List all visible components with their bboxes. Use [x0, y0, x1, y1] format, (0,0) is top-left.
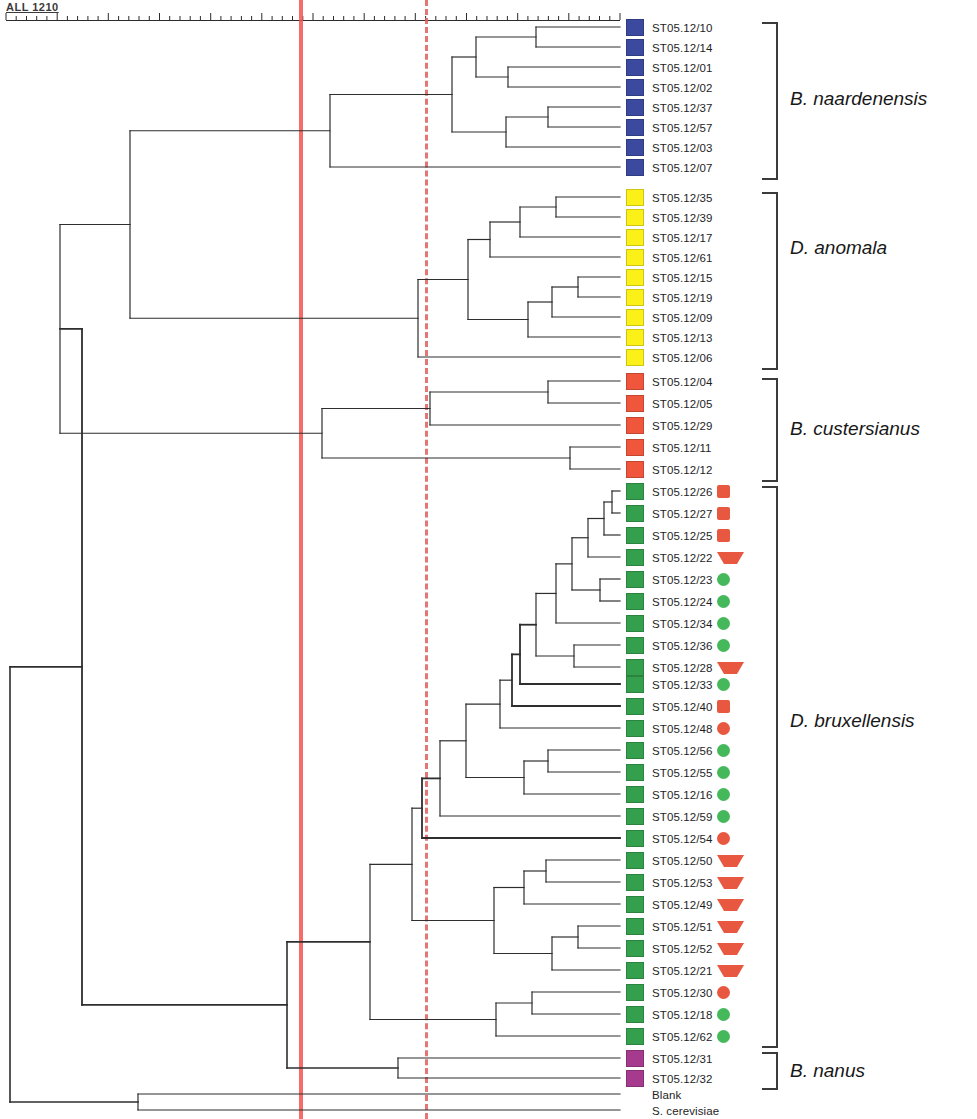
- species-color-swatch: [626, 39, 644, 56]
- species-color-swatch: [626, 1006, 644, 1023]
- red-triangle-marker: [717, 965, 744, 977]
- leaf-row[interactable]: ST05.12/49: [626, 895, 744, 914]
- leaf-row[interactable]: ST05.12/61: [626, 248, 712, 267]
- leaf-label: ST05.12/21: [652, 965, 712, 977]
- leaf-label: ST05.12/55: [652, 767, 712, 779]
- species-color-swatch: [626, 764, 644, 781]
- red-triangle-marker: [717, 921, 744, 933]
- leaf-row[interactable]: ST05.12/57: [626, 118, 712, 137]
- leaf-label: ST05.12/06: [652, 352, 712, 364]
- green-circle-marker: [717, 595, 730, 608]
- species-color-swatch: [626, 637, 644, 654]
- leaf-row[interactable]: ST05.12/26: [626, 482, 730, 501]
- leaf-row[interactable]: ST05.12/55: [626, 763, 730, 782]
- leaf-label: ST05.12/62: [652, 1031, 712, 1043]
- leaf-row[interactable]: ST05.12/10: [626, 18, 712, 37]
- leaf-row[interactable]: ST05.12/06: [626, 348, 712, 367]
- leaf-row[interactable]: ST05.12/24: [626, 592, 730, 611]
- dendrogram-branches: [0, 0, 660, 1119]
- leaf-row[interactable]: ST05.12/62: [626, 1027, 730, 1046]
- leaf-label: ST05.12/17: [652, 232, 712, 244]
- leaf-row[interactable]: ST05.12/09: [626, 308, 712, 327]
- leaf-row[interactable]: ST05.12/11: [626, 438, 712, 457]
- leaf-row[interactable]: ST05.12/07: [626, 158, 712, 177]
- red-triangle-marker: [717, 877, 744, 889]
- leaf-row[interactable]: ST05.12/53: [626, 873, 744, 892]
- leaf-label: ST05.12/51: [652, 921, 712, 933]
- leaf-label: ST05.12/07: [652, 162, 712, 174]
- green-circle-marker: [717, 639, 730, 652]
- species-color-swatch: [626, 852, 644, 869]
- species-color-swatch: [626, 79, 644, 96]
- leaf-row[interactable]: ST05.12/36: [626, 636, 730, 655]
- species-color-swatch: [626, 698, 644, 715]
- leaf-row[interactable]: ST05.12/29: [626, 416, 712, 435]
- species-name-label: D. anomala: [790, 237, 887, 259]
- species-color-swatch: [626, 395, 644, 412]
- leaf-row[interactable]: ST05.12/03: [626, 138, 712, 157]
- red-circle-marker: [717, 722, 730, 735]
- leaf-row[interactable]: ST05.12/51: [626, 917, 744, 936]
- species-color-swatch: [626, 159, 644, 176]
- species-color-swatch: [626, 417, 644, 434]
- red-square-marker: [717, 507, 730, 520]
- leaf-row[interactable]: ST05.12/01: [626, 58, 712, 77]
- leaf-row[interactable]: ST05.12/35: [626, 188, 712, 207]
- leaf-row[interactable]: ST05.12/31: [626, 1049, 712, 1068]
- leaf-row[interactable]: ST05.12/33: [626, 675, 730, 694]
- group-bracket: [762, 22, 778, 180]
- leaf-row[interactable]: ST05.12/21: [626, 961, 744, 980]
- green-circle-marker: [717, 788, 730, 801]
- leaf-row[interactable]: ST05.12/14: [626, 38, 712, 57]
- leaf-label: ST05.12/34: [652, 618, 712, 630]
- leaf-row[interactable]: ST05.12/25: [626, 526, 730, 545]
- leaf-row[interactable]: ST05.12/37: [626, 98, 712, 117]
- leaf-row[interactable]: ST05.12/17: [626, 228, 712, 247]
- species-color-swatch: [626, 593, 644, 610]
- leaf-row[interactable]: ST05.12/13: [626, 328, 712, 347]
- leaf-row[interactable]: ST05.12/16: [626, 785, 730, 804]
- leaf-row[interactable]: ST05.12/34: [626, 614, 730, 633]
- green-circle-marker: [717, 810, 730, 823]
- leaf-label: ST05.12/04: [652, 376, 712, 388]
- leaf-label: ST05.12/23: [652, 574, 712, 586]
- leaf-row[interactable]: ST05.12/22: [626, 548, 744, 567]
- leaf-row[interactable]: ST05.12/56: [626, 741, 730, 760]
- leaf-row[interactable]: ST05.12/27: [626, 504, 730, 523]
- leaf-row[interactable]: ST05.12/15: [626, 268, 712, 287]
- leaf-row[interactable]: ST05.12/40: [626, 697, 730, 716]
- species-name-label: B. custersianus: [790, 418, 920, 440]
- species-color-swatch: [626, 1050, 644, 1067]
- leaf-row[interactable]: ST05.12/50: [626, 851, 744, 870]
- leaf-label: ST05.12/39: [652, 212, 712, 224]
- group-bracket: [762, 486, 778, 1048]
- leaf-label: ST05.12/52: [652, 943, 712, 955]
- leaf-row[interactable]: ST05.12/30: [626, 983, 730, 1002]
- leaf-row[interactable]: ST05.12/52: [626, 939, 744, 958]
- leaf-row[interactable]: S. cerevisiae: [626, 1101, 719, 1119]
- leaf-label: ST05.12/35: [652, 192, 712, 204]
- leaf-row[interactable]: ST05.12/23: [626, 570, 730, 589]
- leaf-label: ST05.12/54: [652, 833, 712, 845]
- leaf-row[interactable]: ST05.12/39: [626, 208, 712, 227]
- species-color-swatch: [626, 209, 644, 226]
- leaf-row[interactable]: ST05.12/54: [626, 829, 730, 848]
- leaf-row[interactable]: ST05.12/59: [626, 807, 730, 826]
- leaf-label: ST05.12/05: [652, 398, 712, 410]
- leaf-row[interactable]: ST05.12/48: [626, 719, 730, 738]
- species-color-swatch: [626, 830, 644, 847]
- leaf-label: ST05.12/10: [652, 22, 712, 34]
- leaf-row[interactable]: ST05.12/02: [626, 78, 712, 97]
- leaf-label: ST05.12/01: [652, 62, 712, 74]
- species-color-swatch: [626, 349, 644, 366]
- species-color-swatch: [626, 19, 644, 36]
- leaf-row[interactable]: ST05.12/04: [626, 372, 712, 391]
- species-color-swatch: [626, 742, 644, 759]
- leaf-row[interactable]: ST05.12/18: [626, 1005, 730, 1024]
- species-color-swatch: [626, 229, 644, 246]
- leaf-label: ST05.12/22: [652, 552, 712, 564]
- leaf-row[interactable]: ST05.12/05: [626, 394, 712, 413]
- leaf-label: ST05.12/59: [652, 811, 712, 823]
- leaf-row[interactable]: ST05.12/12: [626, 460, 712, 479]
- leaf-row[interactable]: ST05.12/19: [626, 288, 712, 307]
